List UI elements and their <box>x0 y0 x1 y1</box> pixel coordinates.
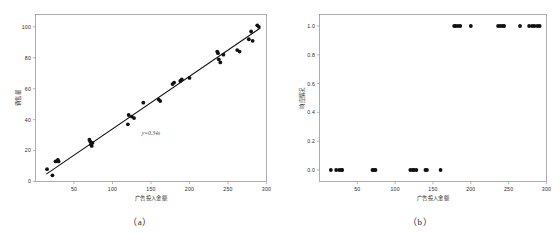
regression-line-a <box>46 28 260 174</box>
data-point <box>51 173 55 177</box>
data-point <box>251 39 255 43</box>
data-point <box>247 37 251 41</box>
figure-container: 50100150200250300 020406080100 y=0.34x 广… <box>0 0 560 234</box>
y-tick-label: 1.0 <box>307 23 315 29</box>
data-point <box>469 24 473 28</box>
x-tick-label: 300 <box>542 186 551 192</box>
data-point <box>45 167 49 171</box>
plot-b-axes <box>320 15 547 182</box>
x-axis-ticks-a: 50100150200250300 <box>71 182 271 192</box>
x-axis-ticks-b: 50100150200250300 <box>354 182 551 192</box>
data-point <box>158 99 162 103</box>
data-point <box>414 168 418 172</box>
x-tick-label: 50 <box>71 186 77 192</box>
data-point <box>249 30 253 34</box>
data-point <box>126 122 130 126</box>
data-point <box>538 24 542 28</box>
panel-caption-b: （b） <box>280 215 560 228</box>
plot-frame-b <box>320 15 547 182</box>
y-tick-label: 40 <box>25 117 31 123</box>
data-point <box>91 141 95 145</box>
y-tick-label: 0.6 <box>307 81 315 87</box>
x-tick-label: 150 <box>428 186 437 192</box>
scatter-plot-b: 50100150200250300 0.00.20.40.60.81.0 广告投… <box>280 0 560 234</box>
data-point <box>221 53 225 57</box>
data-point <box>439 168 443 172</box>
panel-caption-a: （a） <box>0 215 280 228</box>
data-point <box>329 168 333 172</box>
scatter-plot-a: 50100150200250300 020406080100 y=0.34x 广… <box>0 0 280 234</box>
data-point <box>425 168 429 172</box>
x-tick-label: 300 <box>262 186 271 192</box>
y-tick-label: 0.4 <box>307 109 315 115</box>
data-point <box>57 159 61 163</box>
panel-a: 50100150200250300 020406080100 y=0.34x 广… <box>0 0 280 234</box>
data-point <box>340 168 344 172</box>
x-tick-label: 50 <box>354 186 360 192</box>
x-axis-title-b: 广告投入金额 <box>417 194 449 202</box>
data-point <box>238 50 242 54</box>
y-tick-label: 0.2 <box>307 138 315 144</box>
x-tick-label: 100 <box>108 186 117 192</box>
data-point <box>141 101 145 105</box>
x-tick-label: 200 <box>466 186 475 192</box>
plot-frame-a <box>36 15 267 182</box>
y-tick-label: 0.0 <box>307 167 315 173</box>
regression-equation-label: y=0.34x <box>141 130 161 136</box>
y-tick-label: 100 <box>22 24 31 30</box>
x-axis-title-a: 广告投入金额 <box>135 194 167 202</box>
y-tick-label: 0 <box>28 178 31 184</box>
data-points-b <box>329 24 542 172</box>
y-axis-ticks-a: 020406080100 <box>22 24 36 185</box>
data-point <box>132 116 136 120</box>
data-point <box>180 78 184 82</box>
y-axis-ticks-b: 0.00.20.40.60.81.0 <box>307 23 319 173</box>
x-tick-label: 150 <box>146 186 155 192</box>
data-point <box>172 81 176 85</box>
data-point <box>374 168 378 172</box>
data-points-a <box>45 23 261 177</box>
data-point <box>218 61 222 65</box>
data-point <box>502 24 506 28</box>
data-point <box>518 24 522 28</box>
data-point <box>216 51 220 55</box>
y-tick-label: 20 <box>25 147 31 153</box>
x-tick-label: 100 <box>391 186 400 192</box>
data-point <box>257 25 261 29</box>
y-axis-title-b: 响应情况 <box>298 87 306 109</box>
y-tick-label: 80 <box>25 55 31 61</box>
x-tick-label: 250 <box>223 186 232 192</box>
y-tick-label: 0.8 <box>307 52 315 58</box>
y-axis-title-a: 销售量 <box>14 89 22 106</box>
x-tick-label: 200 <box>185 186 194 192</box>
x-tick-label: 250 <box>504 186 513 192</box>
panel-b: 50100150200250300 0.00.20.40.60.81.0 广告投… <box>280 0 560 234</box>
y-tick-label: 60 <box>25 86 31 92</box>
fit-line <box>46 28 260 174</box>
data-point <box>188 76 192 80</box>
plot-a-axes <box>36 15 267 182</box>
data-point <box>458 24 462 28</box>
